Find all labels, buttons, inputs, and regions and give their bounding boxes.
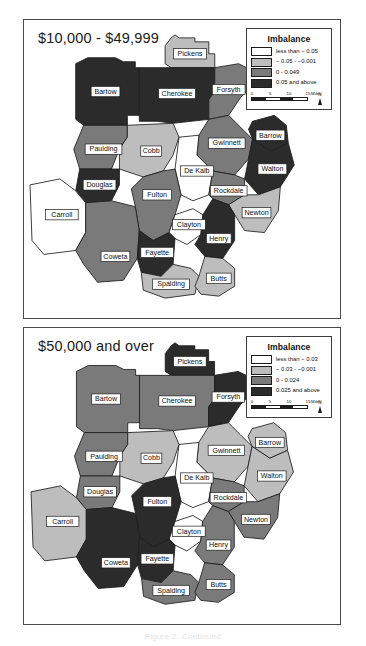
county-label-paulding: Paulding bbox=[90, 145, 118, 153]
legend-label-class-1: less than − 0.05 bbox=[276, 49, 318, 55]
scale-bar-bottom: 0 5 10 15 Miles N bbox=[251, 399, 327, 414]
scale-tick-1: 5 bbox=[269, 399, 271, 404]
county-label-bartow: Bartow bbox=[95, 395, 118, 403]
county-label-newton: Newton bbox=[244, 209, 268, 217]
map-panel-income-10k-50k: PickensBartowCherokeeForsythPauldingCobb… bbox=[23, 19, 341, 319]
county-label-carroll: Carroll bbox=[51, 211, 72, 219]
legend-entry: 0 - 0.049 bbox=[251, 68, 327, 77]
legend-swatch-class-3 bbox=[251, 68, 272, 77]
scale-tick-1: 5 bbox=[269, 91, 271, 96]
county-label-fulton: Fulton bbox=[147, 498, 167, 506]
scale-tick-3: 15 bbox=[306, 91, 311, 96]
county-label-spalding: Spalding bbox=[157, 281, 185, 289]
legend-swatch-class-1 bbox=[251, 47, 272, 56]
county-label-spalding: Spalding bbox=[157, 587, 185, 595]
county-label-paulding: Paulding bbox=[90, 453, 118, 461]
county-label-fayette: Fayette bbox=[145, 555, 169, 563]
legend-entry: 0 - 0.024 bbox=[251, 376, 327, 385]
legend-title: Imbalance bbox=[251, 342, 327, 352]
scale-bar-graphic bbox=[251, 405, 308, 409]
county-label-walton: Walton bbox=[261, 165, 283, 173]
county-label-fulton: Fulton bbox=[147, 191, 167, 199]
legend-entry: 0.05 and above bbox=[251, 79, 327, 88]
county-area-coweta[interactable] bbox=[76, 201, 140, 282]
legend-swatch-class-3 bbox=[251, 376, 272, 385]
county-label-clayton: Clayton bbox=[177, 221, 201, 229]
county-label-coweta: Coweta bbox=[103, 253, 127, 261]
county-label-gwinnett: Gwinnett bbox=[213, 139, 241, 147]
legend-label-class-2: − 0.03 - −0.001 bbox=[276, 367, 316, 373]
county-label-cobb: Cobb bbox=[143, 455, 160, 463]
scale-bar-top: 0 5 10 15 Miles N bbox=[251, 91, 327, 106]
north-arrow-label: N bbox=[314, 401, 326, 406]
north-arrow-bottom: N bbox=[314, 401, 326, 414]
legend-label-class-2: − 0.05 - −0.001 bbox=[276, 59, 316, 65]
legend-title: Imbalance bbox=[251, 34, 327, 44]
legend-entry: − 0.03 - −0.001 bbox=[251, 366, 327, 375]
legend-label-class-3: 0 - 0.024 bbox=[276, 378, 299, 384]
county-label-de-kalb: De Kalb bbox=[184, 474, 209, 482]
scale-tick-2: 10 bbox=[287, 91, 292, 96]
legend-swatch-class-2 bbox=[251, 366, 272, 375]
legend-entry: − 0.05 - −0.001 bbox=[251, 58, 327, 67]
legend-swatch-class-2 bbox=[251, 58, 272, 67]
county-label-pickens: Pickens bbox=[177, 358, 202, 366]
county-label-forsyth: Forsyth bbox=[217, 86, 241, 94]
legend-entry: less than − 0.05 bbox=[251, 47, 327, 56]
county-label-douglas: Douglas bbox=[86, 181, 113, 189]
county-label-cherokee: Cherokee bbox=[162, 397, 193, 405]
north-arrow-icon bbox=[318, 406, 322, 413]
county-label-barrow: Barrow bbox=[259, 439, 282, 447]
county-label-bartow: Bartow bbox=[94, 88, 117, 96]
legend-label-class-4: 0.05 and above bbox=[276, 80, 317, 86]
county-label-butts: Butts bbox=[210, 581, 227, 589]
scale-tick-0: 0 bbox=[251, 399, 253, 404]
map-legend-bottom: Imbalance less than − 0.03 − 0.03 - −0.0… bbox=[246, 336, 332, 418]
legend-label-class-1: less than − 0.03 bbox=[276, 357, 318, 363]
county-label-clayton: Clayton bbox=[177, 528, 201, 536]
county-area-coweta[interactable] bbox=[76, 508, 139, 589]
county-label-cherokee: Cherokee bbox=[162, 90, 193, 98]
county-label-butts: Butts bbox=[211, 275, 228, 283]
county-label-douglas: Douglas bbox=[87, 488, 113, 496]
county-label-coweta: Coweta bbox=[104, 559, 128, 567]
legend-swatch-class-1 bbox=[251, 355, 272, 364]
county-label-cobb: Cobb bbox=[143, 147, 160, 155]
county-label-walton: Walton bbox=[261, 472, 283, 480]
county-label-rockdale: Rockdale bbox=[214, 187, 244, 195]
north-arrow-label: N bbox=[314, 93, 326, 98]
county-label-forsyth: Forsyth bbox=[217, 393, 241, 401]
county-label-pickens: Pickens bbox=[177, 50, 202, 58]
county-label-rockdale: Rockdale bbox=[214, 494, 244, 502]
map-panel-income-50k-over: PickensBartowCherokeeForsythPauldingCobb… bbox=[23, 327, 341, 625]
panel-title-bottom: $50,000 and over bbox=[38, 338, 154, 354]
panel-title-top: $10,000 - $49,999 bbox=[38, 30, 159, 46]
figure-two-maps: PickensBartowCherokeeForsythPauldingCobb… bbox=[0, 0, 366, 646]
scale-tick-3: 15 bbox=[306, 399, 311, 404]
legend-swatch-class-4 bbox=[251, 79, 272, 88]
county-label-henry: Henry bbox=[209, 235, 228, 243]
north-arrow-top: N bbox=[314, 93, 326, 106]
legend-swatch-class-4 bbox=[251, 387, 272, 396]
map-legend-top: Imbalance less than − 0.05 − 0.05 - −0.0… bbox=[246, 28, 332, 110]
county-label-gwinnett: Gwinnett bbox=[212, 447, 240, 455]
figure-caption: Figure 2. Continued bbox=[0, 632, 366, 641]
county-label-fayette: Fayette bbox=[145, 249, 169, 257]
scale-tick-0: 0 bbox=[251, 91, 253, 96]
legend-entry: less than − 0.03 bbox=[251, 355, 327, 364]
county-label-carroll: Carroll bbox=[52, 518, 73, 526]
scale-tick-2: 10 bbox=[287, 399, 292, 404]
legend-label-class-4: 0.025 and above bbox=[276, 388, 320, 394]
north-arrow-icon bbox=[318, 98, 322, 105]
county-label-barrow: Barrow bbox=[259, 132, 282, 140]
legend-entry: 0.025 and above bbox=[251, 387, 327, 396]
scale-bar-graphic bbox=[251, 97, 308, 101]
county-label-de-kalb: De Kalb bbox=[184, 167, 209, 175]
county-label-henry: Henry bbox=[209, 541, 228, 549]
county-label-newton: Newton bbox=[244, 516, 268, 524]
legend-label-class-3: 0 - 0.049 bbox=[276, 70, 299, 76]
